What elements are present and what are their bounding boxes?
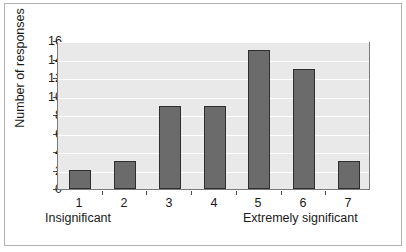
y-tick-label: 10 <box>22 91 62 104</box>
y-tick-label: 0 <box>22 183 62 196</box>
x-tick-label: 6 <box>280 196 326 210</box>
bar <box>159 106 181 189</box>
gridline <box>58 42 369 43</box>
bar <box>338 161 360 189</box>
y-tick-label: 8 <box>22 109 62 122</box>
scale-anchor-low-label: Insignificant <box>45 211 111 225</box>
x-tick-label: 7 <box>325 196 371 210</box>
x-tick-label: 3 <box>146 196 192 210</box>
x-tick-mark <box>236 191 237 195</box>
bar <box>204 106 226 189</box>
chart-figure: Number of responses 0246810121416 123456… <box>0 0 406 252</box>
bar <box>114 161 136 189</box>
y-tick-label: 4 <box>22 146 62 159</box>
x-tick-mark <box>102 191 103 195</box>
y-tick-label: 16 <box>22 35 62 48</box>
y-tick-label: 2 <box>22 165 62 178</box>
x-tick-mark <box>146 191 147 195</box>
x-tick-mark <box>281 191 282 195</box>
plot-area <box>57 42 370 190</box>
bar <box>248 50 270 189</box>
y-tick-label: 14 <box>22 54 62 67</box>
gridline <box>58 98 369 99</box>
x-tick-mark <box>191 191 192 195</box>
x-tick-label: 4 <box>191 196 237 210</box>
x-tick-mark <box>325 191 326 195</box>
y-tick-label: 12 <box>22 72 62 85</box>
y-tick-label: 6 <box>22 128 62 141</box>
x-tick-label: 5 <box>235 196 281 210</box>
gridline <box>58 61 369 62</box>
gridline <box>58 79 369 80</box>
bar <box>293 69 315 189</box>
x-tick-label: 2 <box>101 196 147 210</box>
x-tick-label: 1 <box>56 196 102 210</box>
scale-anchor-high-label: Extremely significant <box>243 211 358 225</box>
bar <box>69 170 91 189</box>
